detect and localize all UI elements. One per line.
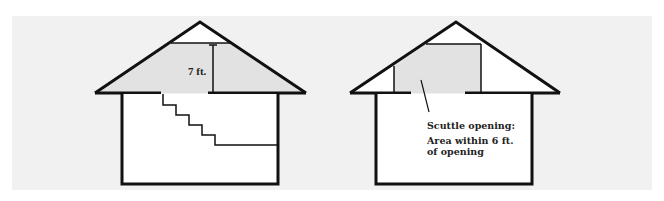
right-attic-shaded-area [394,44,481,93]
height-label: 7 ft. [188,65,207,77]
left-house-interior [122,94,278,184]
callout-line-1: Area within 6 ft. [426,135,514,146]
right-house-scuttle-access: Scuttle opening: Area within 6 ft. of op… [350,22,560,184]
callout-title: Scuttle opening: [427,120,515,131]
attic-access-diagram: 7 ft. Scuttle opening: Area within 6 ft.… [0,0,664,201]
left-house-stairway-access: 7 ft. [95,22,306,184]
callout-line-2: of opening [427,146,484,157]
